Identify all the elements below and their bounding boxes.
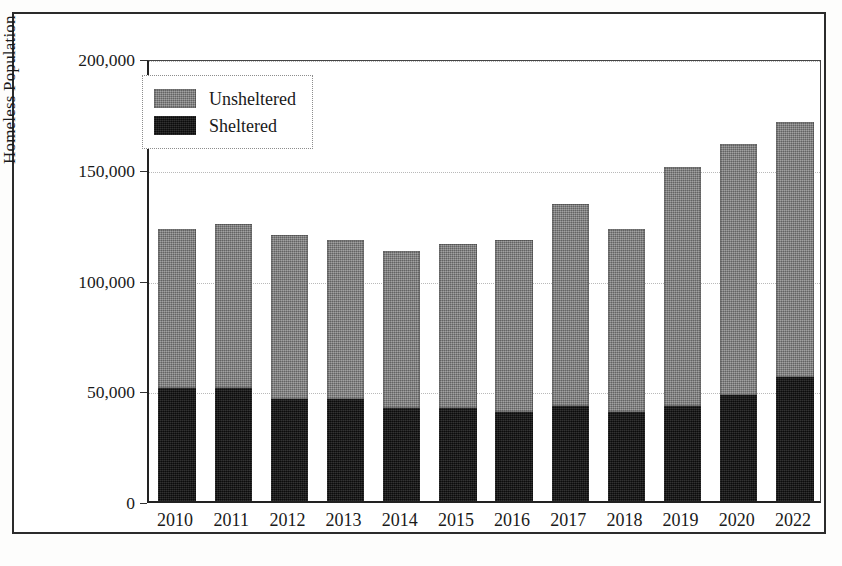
bar-segment-sheltered <box>271 399 308 501</box>
bar-segment-unsheltered <box>271 235 308 399</box>
bar-2018 <box>608 229 645 501</box>
bar-segment-unsheltered <box>664 167 701 406</box>
x-tick-label: 2019 <box>663 510 699 531</box>
bar-segment-unsheltered <box>383 251 420 408</box>
gridline <box>149 61 820 62</box>
sheltered-swatch <box>154 116 196 135</box>
bar-segment-unsheltered <box>720 144 757 394</box>
bar-2013 <box>327 240 364 501</box>
legend-label-unsheltered: Unsheltered <box>209 90 296 108</box>
x-tick-label: 2022 <box>775 510 811 531</box>
y-tick-mark <box>140 60 147 61</box>
x-tick-label: 2010 <box>157 510 193 531</box>
bar-segment-unsheltered <box>552 204 589 406</box>
x-tick-label: 2018 <box>606 510 642 531</box>
x-tick-label: 2014 <box>382 510 418 531</box>
bar-segment-unsheltered <box>608 229 645 413</box>
x-tick-label: 2013 <box>326 510 362 531</box>
bar-2015 <box>439 244 476 501</box>
y-tick-label: 50,000 <box>23 382 135 403</box>
bar-segment-unsheltered <box>158 229 195 388</box>
bar-segment-sheltered <box>608 412 645 501</box>
unsheltered-swatch <box>154 89 196 108</box>
bar-segment-sheltered <box>664 406 701 501</box>
chart-legend: Unsheltered Sheltered <box>142 75 313 149</box>
bar-segment-unsheltered <box>215 224 252 388</box>
bar-segment-sheltered <box>439 408 476 501</box>
y-tick-mark <box>140 171 147 172</box>
bar-segment-sheltered <box>720 395 757 501</box>
figure: Homeless Population 050,000100,000150,00… <box>0 0 842 566</box>
x-tick-label: 2011 <box>214 510 249 531</box>
x-tick-label: 2017 <box>550 510 586 531</box>
bar-segment-sheltered <box>158 388 195 501</box>
bar-2019 <box>664 167 701 501</box>
bar-segment-sheltered <box>495 412 532 501</box>
bar-2020 <box>720 144 757 501</box>
y-tick-label: 200,000 <box>23 50 135 71</box>
bar-segment-unsheltered <box>439 244 476 408</box>
bar-segment-sheltered <box>215 388 252 501</box>
bar-2012 <box>271 235 308 501</box>
bar-2022 <box>776 122 813 501</box>
bar-2011 <box>215 224 252 501</box>
bar-2017 <box>552 204 589 501</box>
bar-2010 <box>158 229 195 501</box>
x-tick-label: 2020 <box>719 510 755 531</box>
bar-segment-unsheltered <box>327 240 364 399</box>
legend-label-sheltered: Sheltered <box>209 117 277 135</box>
bar-segment-sheltered <box>383 408 420 501</box>
x-tick-label: 2015 <box>438 510 474 531</box>
y-axis-title: Homeless Population <box>0 0 20 164</box>
y-tick-label: 0 <box>23 493 135 514</box>
bar-2016 <box>495 240 532 501</box>
y-tick-label: 150,000 <box>23 160 135 181</box>
x-tick-label: 2016 <box>494 510 530 531</box>
figure-frame: Homeless Population 050,000100,000150,00… <box>12 12 826 534</box>
bar-segment-sheltered <box>776 377 813 501</box>
bar-segment-unsheltered <box>776 122 813 377</box>
y-tick-mark <box>140 503 147 504</box>
legend-item-unsheltered: Unsheltered <box>154 85 296 112</box>
x-tick-label: 2012 <box>269 510 305 531</box>
y-tick-mark <box>140 282 147 283</box>
bar-2014 <box>383 251 420 501</box>
legend-item-sheltered: Sheltered <box>154 112 296 139</box>
y-tick-label: 100,000 <box>23 271 135 292</box>
bar-segment-sheltered <box>327 399 364 501</box>
y-tick-mark <box>140 392 147 393</box>
bar-segment-sheltered <box>552 406 589 501</box>
bar-segment-unsheltered <box>495 240 532 413</box>
